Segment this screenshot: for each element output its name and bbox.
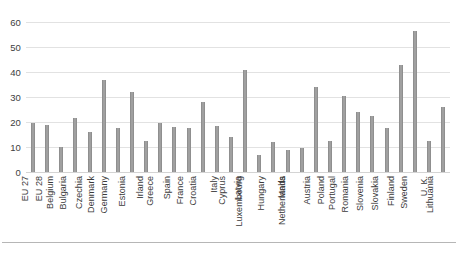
bar-slot xyxy=(436,22,450,172)
x-axis-tick-label: France xyxy=(174,176,184,204)
x-axis-labels: EU 27EU 28BelgiumBulgariaCzechiaDenmarkG… xyxy=(26,174,450,236)
bar-chart: 0102030405060 EU 27EU 28BelgiumBulgariaC… xyxy=(0,0,458,253)
bar-slot xyxy=(309,22,323,172)
y-axis-tick-label: 10 xyxy=(10,142,21,153)
bar[interactable] xyxy=(243,70,247,173)
y-axis-tick-label: 30 xyxy=(10,92,21,103)
x-axis-tick-label: Austria xyxy=(302,176,312,204)
bar[interactable] xyxy=(286,150,290,173)
bottom-divider xyxy=(2,242,456,243)
x-axis-tick-label: Bulgaria xyxy=(59,176,69,209)
bar[interactable] xyxy=(116,128,120,172)
bar[interactable] xyxy=(31,123,35,172)
bar-slot xyxy=(252,22,266,172)
bar[interactable] xyxy=(356,112,360,172)
bar[interactable] xyxy=(385,128,389,172)
bar-slot xyxy=(40,22,54,172)
y-axis-tick-label: 60 xyxy=(10,17,21,28)
x-axis-tick-label: Romania xyxy=(340,176,350,212)
x-axis-tick-label: Lithuania xyxy=(425,176,435,213)
gridline xyxy=(26,172,450,173)
bar-slot xyxy=(394,22,408,172)
bar[interactable] xyxy=(172,127,176,172)
bar-slot xyxy=(422,22,436,172)
bar[interactable] xyxy=(144,141,148,172)
x-axis-tick-label: Czechia xyxy=(73,176,83,209)
bar[interactable] xyxy=(229,137,233,172)
bar-slot xyxy=(111,22,125,172)
bar-slot xyxy=(224,22,238,172)
bar-slot xyxy=(83,22,97,172)
y-axis-tick-label: 50 xyxy=(10,42,21,53)
bar[interactable] xyxy=(102,80,106,173)
bar-slot xyxy=(153,22,167,172)
bar[interactable] xyxy=(399,65,403,173)
bar-slot xyxy=(68,22,82,172)
y-axis-tick-label: 20 xyxy=(10,117,21,128)
bar[interactable] xyxy=(187,128,191,172)
bar[interactable] xyxy=(413,31,417,172)
x-axis-tick-label: Luxembourg xyxy=(234,176,244,227)
y-axis-tick-label: 40 xyxy=(10,67,21,78)
bar-slot xyxy=(281,22,295,172)
x-axis-tick-label: EU 28 xyxy=(35,176,45,201)
bar[interactable] xyxy=(130,92,134,172)
x-axis-tick-label: Denmark xyxy=(85,176,95,213)
x-axis-tick-label: Belgium xyxy=(45,176,55,209)
bar-slot xyxy=(408,22,422,172)
bar-slot xyxy=(54,22,68,172)
bar-slot xyxy=(167,22,181,172)
bar-slot xyxy=(97,22,111,172)
x-axis-tick-label: Spain xyxy=(163,176,173,199)
x-axis-tick-label: Croatia xyxy=(188,176,198,205)
bar[interactable] xyxy=(158,123,162,172)
x-axis-tick-label: Portugal xyxy=(327,176,337,210)
bar-slot xyxy=(26,22,40,172)
bar[interactable] xyxy=(215,126,219,172)
bar-slot xyxy=(196,22,210,172)
bar-slot xyxy=(295,22,309,172)
bar-slot xyxy=(337,22,351,172)
x-axis-tick-label: Greece xyxy=(145,176,155,206)
bar[interactable] xyxy=(201,102,205,172)
bar-slot xyxy=(351,22,365,172)
x-axis-label-slot: Lithuania xyxy=(436,174,450,236)
bar-slot xyxy=(365,22,379,172)
plot-area: 0102030405060 xyxy=(26,22,450,172)
x-axis-tick-label: Finland xyxy=(386,176,396,206)
bar[interactable] xyxy=(73,118,77,172)
bar[interactable] xyxy=(45,125,49,173)
bar[interactable] xyxy=(59,147,63,172)
bar[interactable] xyxy=(427,141,431,172)
bar[interactable] xyxy=(271,142,275,172)
x-axis-tick-label: Slovakia xyxy=(369,176,379,210)
x-axis-tick-label: Slovenia xyxy=(355,176,365,211)
x-axis-tick-label: Estonia xyxy=(117,176,127,206)
x-axis-tick-label: Poland xyxy=(316,176,326,204)
bar[interactable] xyxy=(328,141,332,172)
bar[interactable] xyxy=(314,87,318,172)
bar[interactable] xyxy=(370,116,374,172)
x-axis-tick-label: Netherlands xyxy=(277,176,287,225)
x-axis-tick-label: Cyprus xyxy=(217,176,227,205)
x-axis-tick-label: Sweden xyxy=(398,176,408,209)
bar-slot xyxy=(139,22,153,172)
bar-slot xyxy=(182,22,196,172)
bar-slot xyxy=(210,22,224,172)
bar[interactable] xyxy=(88,132,92,172)
bar-series xyxy=(26,22,450,172)
bar-slot xyxy=(323,22,337,172)
x-axis-tick-label: Germany xyxy=(99,176,109,213)
bar-slot xyxy=(266,22,280,172)
bar[interactable] xyxy=(342,96,346,172)
bar[interactable] xyxy=(300,148,304,172)
bar-slot xyxy=(238,22,252,172)
bar[interactable] xyxy=(257,155,261,173)
bar-slot xyxy=(125,22,139,172)
x-axis-tick-label: EU 27 xyxy=(20,176,30,201)
bar-slot xyxy=(380,22,394,172)
x-axis-tick-label: Hungary xyxy=(256,176,266,210)
x-axis-tick-label: Irland xyxy=(135,176,145,199)
bar[interactable] xyxy=(441,107,445,172)
